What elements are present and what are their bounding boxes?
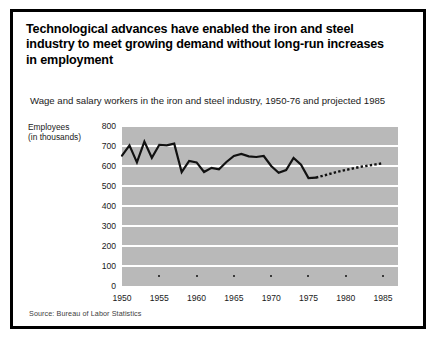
source-note: Source: Bureau of Labor Statistics [29, 309, 141, 318]
x-axis-tick-label: 1985 [363, 294, 403, 303]
series-line-actual [122, 142, 316, 178]
x-axis-tick-label: 1950 [102, 294, 142, 303]
page-title: Technological advances have enabled the … [26, 22, 394, 68]
chart: Employees (in thousands) 800700600500400… [28, 122, 404, 312]
figure-container: Technological advances have enabled the … [0, 0, 436, 338]
x-axis-tick-label: 1970 [251, 294, 291, 303]
x-axis-tick-label: 1965 [214, 294, 254, 303]
x-axis-tick-label: 1955 [139, 294, 179, 303]
x-axis-tick-label: 1980 [326, 294, 366, 303]
series-lines [28, 122, 404, 312]
series-line-projected [316, 163, 383, 177]
x-axis-tick-label: 1975 [288, 294, 328, 303]
chart-subtitle: Wage and salary workers in the iron and … [30, 95, 390, 108]
x-axis-tick-label: 1960 [177, 294, 217, 303]
